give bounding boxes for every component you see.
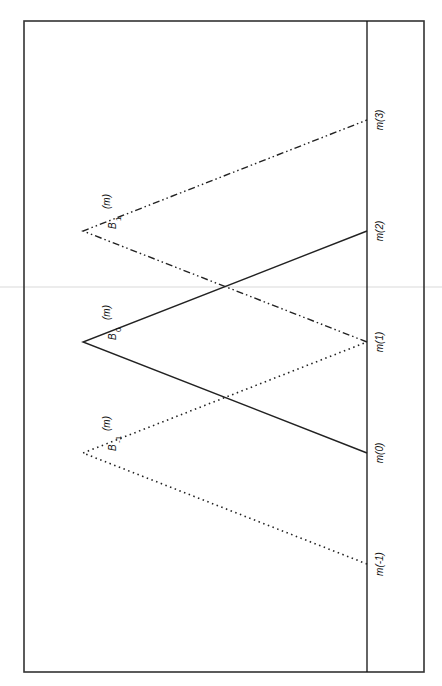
function-subscript: 0: [114, 327, 123, 332]
function-label-b1: B1(m): [101, 194, 123, 229]
hat-functions: [83, 120, 367, 564]
basis-function-diagram: m(-1)m(0)m(1)m(2)m(3) B-1(m)B0(m)B1(m): [0, 0, 442, 686]
function-subscript: -1: [114, 435, 123, 443]
function-symbol: B: [107, 222, 118, 229]
function-subscript: 1: [114, 216, 123, 221]
knot-label-m2: m(2): [374, 221, 385, 242]
function-argument: (m): [101, 416, 112, 431]
figure-frame: [24, 21, 424, 672]
knot-label-m0: m(0): [374, 443, 385, 464]
function-argument: (m): [101, 194, 112, 209]
function-symbol: B: [107, 444, 118, 451]
function-labels: B-1(m)B0(m)B1(m): [101, 194, 123, 451]
hat-function-b0: [83, 231, 367, 453]
function-label-b0: B0(m): [101, 305, 123, 340]
function-argument: (m): [101, 305, 112, 320]
function-label-b-1: B-1(m): [101, 416, 123, 451]
knot-label-m1: m(1): [374, 332, 385, 353]
knot-label-m-1: m(-1): [374, 552, 385, 576]
knot-label-m3: m(3): [374, 110, 385, 131]
function-symbol: B: [107, 333, 118, 340]
knot-labels: m(-1)m(0)m(1)m(2)m(3): [374, 110, 385, 576]
hat-function-b1: [83, 120, 367, 342]
hat-function-b-1: [83, 342, 367, 564]
